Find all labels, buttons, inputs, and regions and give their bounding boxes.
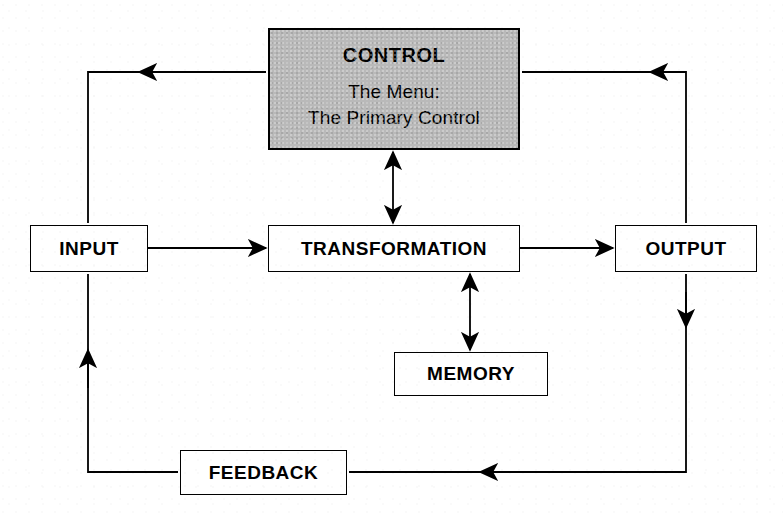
node-control-title: CONTROL bbox=[343, 44, 445, 67]
node-control-subtitle-line1: The Menu: bbox=[348, 79, 440, 105]
node-control-subtitle-line2: The Primary Control bbox=[308, 105, 480, 131]
node-control[interactable]: CONTROL The Menu: The Primary Control bbox=[268, 28, 520, 150]
node-memory[interactable]: MEMORY bbox=[394, 352, 548, 396]
edge-control-to-input-loop bbox=[88, 72, 266, 223]
edge-output-to-control-loop bbox=[522, 72, 686, 223]
diagram-canvas: CONTROL The Menu: The Primary Control IN… bbox=[0, 0, 783, 518]
node-transformation[interactable]: TRANSFORMATION bbox=[268, 225, 520, 272]
edge-feedback-to-input bbox=[88, 274, 178, 472]
node-input-title: INPUT bbox=[59, 238, 119, 260]
node-output[interactable]: OUTPUT bbox=[615, 225, 757, 272]
node-input[interactable]: INPUT bbox=[30, 225, 148, 272]
node-output-title: OUTPUT bbox=[645, 238, 726, 260]
node-memory-title: MEMORY bbox=[427, 363, 515, 385]
node-feedback[interactable]: FEEDBACK bbox=[180, 450, 347, 495]
node-transformation-title: TRANSFORMATION bbox=[301, 238, 487, 260]
node-feedback-title: FEEDBACK bbox=[209, 462, 319, 484]
